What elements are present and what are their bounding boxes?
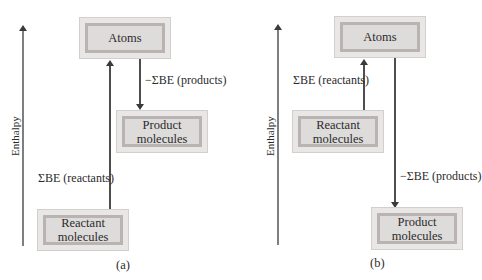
up-arrow-label-a: ΣBE (reactants) xyxy=(38,171,114,186)
product-box-a: Productmolecules xyxy=(116,110,208,153)
caption-a: (a) xyxy=(116,258,130,273)
reactant-label-b: Reactantmolecules xyxy=(313,118,364,146)
reactant-label-a: Reactantmolecules xyxy=(58,216,109,244)
atoms-label-b: Atoms xyxy=(363,30,396,44)
product-box-b: Productmolecules xyxy=(371,207,463,250)
atoms-label-a: Atoms xyxy=(108,31,141,45)
product-label-b: Productmolecules xyxy=(392,215,443,243)
enthalpy-label-b: Enthalpy xyxy=(264,116,276,156)
up-arrow-label-b: ΣBE (reactants) xyxy=(293,73,369,88)
atoms-box-a: Atoms xyxy=(79,17,171,59)
reactant-box-b: Reactantmolecules xyxy=(292,110,384,153)
caption-b: (b) xyxy=(370,256,385,271)
down-arrow-label-a: −ΣBE (products) xyxy=(145,73,226,88)
enthalpy-label-a: Enthalpy xyxy=(9,116,21,156)
atoms-box-b: Atoms xyxy=(334,16,426,58)
down-arrow-label-b: −ΣBE (products) xyxy=(400,169,481,184)
reactant-box-a: Reactantmolecules xyxy=(37,209,129,251)
product-label-a: Productmolecules xyxy=(137,118,188,146)
